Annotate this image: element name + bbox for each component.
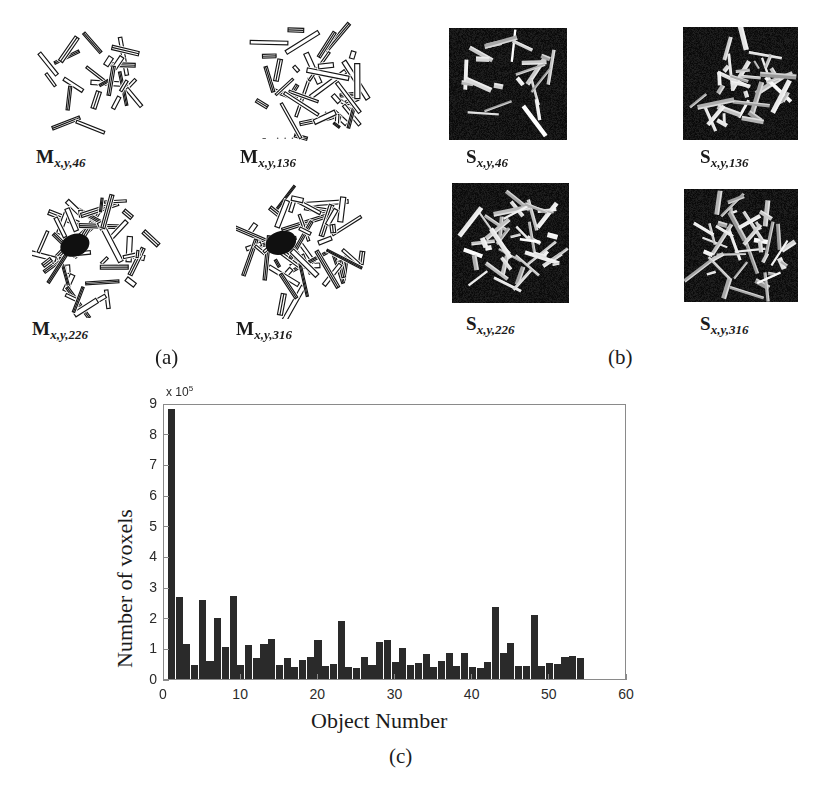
bar bbox=[237, 665, 244, 679]
y-tick-mark bbox=[163, 496, 169, 497]
mask-slice-image-46 bbox=[36, 28, 146, 138]
bar bbox=[492, 607, 499, 679]
bar bbox=[484, 662, 491, 679]
seg-slice-image-136 bbox=[683, 27, 798, 140]
bar bbox=[176, 597, 183, 679]
bar bbox=[284, 658, 291, 679]
x-tick-mark bbox=[471, 674, 472, 680]
label-symbol: S bbox=[700, 146, 711, 167]
bar bbox=[230, 596, 237, 679]
bar bbox=[245, 645, 252, 679]
bar bbox=[338, 621, 345, 679]
y-tick-mark bbox=[163, 465, 169, 466]
bar bbox=[500, 653, 507, 679]
y-tick-label: 6 bbox=[133, 487, 157, 503]
y-tick-label: 8 bbox=[133, 426, 157, 442]
y-tick-label: 3 bbox=[133, 579, 157, 595]
bar bbox=[384, 640, 391, 679]
label-subscript: x,y,226 bbox=[50, 327, 88, 342]
bar bbox=[168, 409, 175, 679]
bar bbox=[469, 667, 476, 679]
label-subscript: x,y,316 bbox=[254, 327, 292, 342]
bar bbox=[353, 668, 360, 679]
bar bbox=[569, 656, 576, 679]
y-tick-label: 7 bbox=[133, 456, 157, 472]
panel-c-bar-chart: x 105 Number of voxels Object Number (c)… bbox=[0, 378, 817, 789]
mask-label-46: Mx,y,46 bbox=[36, 146, 85, 171]
bar bbox=[214, 618, 221, 679]
bar bbox=[191, 665, 198, 679]
bar bbox=[291, 667, 298, 679]
x-tick-mark bbox=[548, 674, 549, 680]
bar bbox=[577, 658, 584, 679]
x-axis-label: Object Number bbox=[311, 708, 447, 734]
label-subscript: x,y,226 bbox=[477, 322, 515, 337]
x-tick-label: 40 bbox=[454, 686, 490, 702]
mask-label-226: Mx,y,226 bbox=[32, 318, 88, 343]
mask-slice-image-316 bbox=[236, 183, 372, 319]
x-tick-label: 0 bbox=[145, 686, 181, 702]
mask-label-136: Mx,y,136 bbox=[240, 146, 296, 171]
bar bbox=[399, 648, 406, 679]
x-tick-mark bbox=[163, 674, 164, 680]
mask-label-316: Mx,y,316 bbox=[236, 318, 292, 343]
y-axis-exponent: x 105 bbox=[166, 384, 193, 399]
bar bbox=[276, 665, 283, 679]
ellipsis-marker: ‑ ··· bbox=[262, 130, 298, 146]
bar bbox=[546, 663, 553, 679]
y-tick-mark bbox=[163, 680, 169, 681]
y-tick-mark bbox=[163, 434, 169, 435]
seg-label-316: Sx,y,316 bbox=[700, 313, 749, 338]
x-tick-label: 10 bbox=[222, 686, 258, 702]
bar bbox=[461, 653, 468, 679]
bar bbox=[554, 664, 561, 679]
label-symbol: M bbox=[240, 146, 258, 167]
bar bbox=[430, 667, 437, 679]
bar bbox=[368, 665, 375, 679]
x-tick-mark bbox=[317, 674, 318, 680]
label-subscript: x,y,136 bbox=[258, 155, 296, 170]
bar bbox=[531, 615, 538, 679]
y-tick-mark bbox=[163, 588, 169, 589]
mask-slice-image-226 bbox=[32, 188, 162, 318]
y-tick-label: 2 bbox=[133, 610, 157, 626]
bar bbox=[322, 666, 329, 679]
label-symbol: M bbox=[236, 318, 254, 339]
bar bbox=[330, 664, 337, 679]
y-tick-label: 9 bbox=[133, 395, 157, 411]
label-symbol: M bbox=[32, 318, 50, 339]
bar bbox=[423, 654, 430, 679]
mask-slice-image-136 bbox=[242, 18, 372, 148]
seg-label-46: Sx,y,46 bbox=[466, 146, 508, 171]
label-symbol: S bbox=[466, 146, 477, 167]
bar bbox=[507, 643, 514, 679]
x-tick-mark bbox=[626, 674, 627, 680]
bar bbox=[538, 666, 545, 679]
seg-label-226: Sx,y,226 bbox=[466, 313, 515, 338]
seg-slice-image-226 bbox=[452, 183, 569, 303]
x-tick-label: 60 bbox=[608, 686, 644, 702]
label-symbol: S bbox=[700, 313, 711, 334]
bar bbox=[561, 657, 568, 679]
bar bbox=[446, 653, 453, 679]
x-tick-mark bbox=[240, 674, 241, 680]
y-tick-label: 1 bbox=[133, 640, 157, 656]
bar bbox=[523, 666, 530, 679]
bar bbox=[222, 647, 229, 679]
bar bbox=[206, 661, 213, 679]
y-tick-mark bbox=[163, 557, 169, 558]
y-tick-label: 4 bbox=[133, 548, 157, 564]
bar bbox=[515, 666, 522, 679]
seg-slice-image-316 bbox=[684, 189, 798, 302]
bar bbox=[407, 665, 414, 679]
y-tick-mark bbox=[163, 618, 169, 619]
bar bbox=[477, 668, 484, 679]
bar bbox=[345, 667, 352, 679]
bar bbox=[453, 666, 460, 679]
bar bbox=[299, 660, 306, 679]
y-tick-mark bbox=[163, 649, 169, 650]
x-tick-label: 30 bbox=[377, 686, 413, 702]
subfigure-label-b: (b) bbox=[608, 345, 633, 370]
label-symbol: S bbox=[466, 313, 477, 334]
seg-slice-image-46 bbox=[449, 28, 567, 140]
